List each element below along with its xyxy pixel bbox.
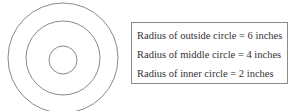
radius-legend: Radius of outside circle = 6 inches Radi…: [131, 22, 288, 84]
concentric-circles: [0, 0, 130, 111]
legend-outside: Radius of outside circle = 6 inches: [137, 26, 287, 45]
legend-middle: Radius of middle circle = 4 inches: [137, 45, 287, 64]
middle-circle: [26, 21, 100, 95]
inner-circle: [49, 46, 77, 74]
legend-inner: Radius of inner circle = 2 inches: [137, 64, 287, 83]
